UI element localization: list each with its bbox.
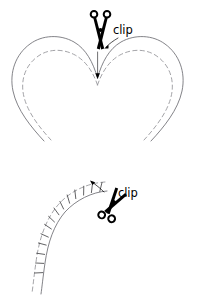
scissors-handle-ring-right <box>104 11 111 18</box>
notch-wedge <box>35 263 44 273</box>
heart-clip-diagram: clip <box>12 11 183 141</box>
clip-label-top: clip <box>113 23 133 37</box>
heart-outer-cut-line-left <box>12 37 98 141</box>
curve-outer-cut-line <box>41 191 107 294</box>
heart-seam-line-right <box>98 50 173 140</box>
notch-wedge <box>60 195 70 209</box>
clip-label-bottom: clip <box>118 186 138 200</box>
notch-wedge <box>41 224 51 237</box>
notch-wedge <box>37 243 47 254</box>
heart-outer-cut-line-right <box>98 37 184 141</box>
scissors-handle-ring-left <box>97 210 106 219</box>
scissors-icon-top <box>91 11 111 50</box>
heart-clip-pointer-arrowhead <box>104 45 108 49</box>
sewing-diagram-canvas: clip <box>0 0 197 297</box>
heart-clip-slit-arrowhead <box>95 73 100 79</box>
scissors-pivot <box>99 28 103 32</box>
heart-seam-line-left <box>23 50 98 140</box>
notch-wedge <box>75 186 84 198</box>
scissors-handle-ring-left <box>91 11 98 18</box>
diagram-sheet: clip <box>0 0 197 297</box>
scissors-handle-ring-right <box>107 214 116 223</box>
curve-notch-clip-diagram: clip <box>32 181 138 294</box>
